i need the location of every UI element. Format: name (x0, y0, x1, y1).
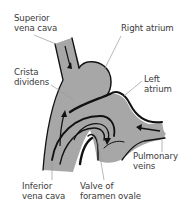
leader-right-atrium (104, 36, 121, 70)
label-line: Right atrium (121, 23, 174, 33)
label-line: atrium (144, 84, 172, 94)
leader-superior-vena-cava (34, 35, 56, 44)
label-line: Crista (14, 67, 49, 77)
label-superior-vena-cava: Superior vena cava (14, 13, 57, 33)
label-line: Left (144, 74, 172, 84)
label-valve-of-foramen-ovale: Valve of foramen ovale (80, 181, 141, 201)
label-line: dividens (14, 77, 49, 87)
label-right-atrium: Right atrium (121, 23, 174, 33)
label-line: Pulmonary (133, 151, 178, 161)
label-crista-dividens: Crista dividens (14, 67, 49, 87)
label-inferior-vena-cava: Inferior vena cava (22, 181, 65, 201)
label-line: veins (133, 161, 178, 171)
label-line: vena cava (22, 191, 65, 201)
label-left-atrium: Left atrium (144, 74, 172, 94)
label-line: Inferior (22, 181, 65, 191)
label-line: foramen ovale (80, 191, 141, 201)
label-line: vena cava (14, 23, 57, 33)
label-line: Superior (14, 13, 57, 23)
leader-left-atrium (124, 81, 142, 96)
label-line: Valve of (80, 181, 141, 191)
label-pulmonary-veins: Pulmonary veins (133, 151, 178, 171)
